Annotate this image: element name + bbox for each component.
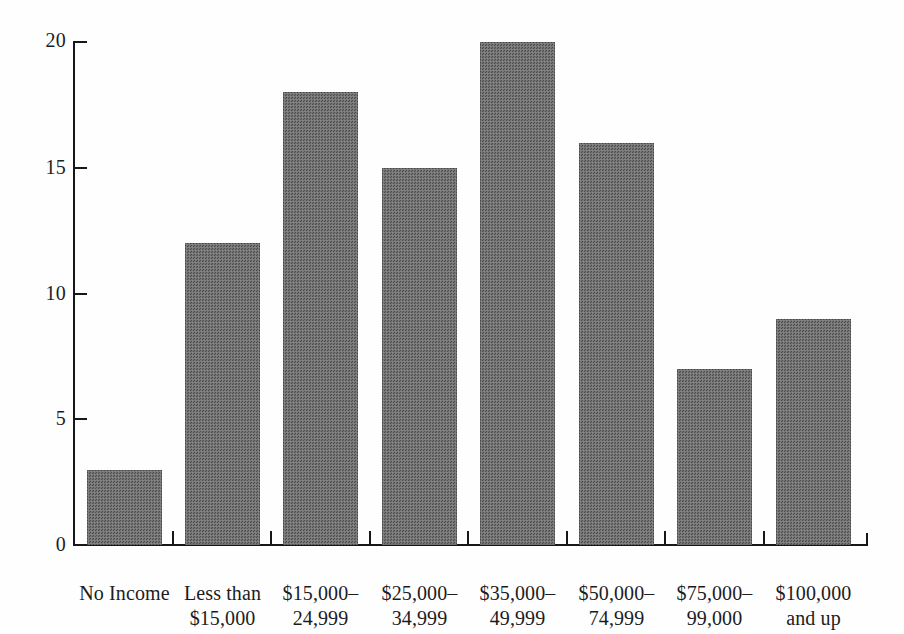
x-label-line1: $100,000 — [776, 582, 852, 604]
x-tick-6 — [664, 531, 666, 545]
bar-75k-99000 — [677, 369, 752, 545]
x-label-line2: and up — [751, 606, 876, 631]
bar-no-income — [87, 470, 162, 545]
y-tick-label-15: 15 — [12, 157, 66, 177]
x-label-line1: $50,000– — [579, 582, 655, 604]
x-label-line1: $15,000– — [283, 582, 359, 604]
x-tick-2 — [270, 531, 272, 545]
x-tick-5 — [566, 531, 568, 545]
x-label-line1: $25,000– — [382, 582, 458, 604]
bar-35k-49999 — [480, 42, 555, 545]
x-axis-end-cap — [866, 533, 868, 545]
y-tick-5 — [75, 418, 87, 420]
x-tick-1 — [172, 531, 174, 545]
bar-50k-74999 — [579, 143, 654, 545]
x-label-line1: $75,000– — [677, 582, 753, 604]
y-tick-20 — [75, 41, 87, 43]
bar-less-than-15k — [185, 243, 260, 545]
y-tick-label-5: 5 — [12, 408, 66, 428]
y-tick-label-20: 20 — [12, 30, 66, 50]
bar-15k-24999 — [283, 92, 358, 545]
x-label-line1: $35,000– — [480, 582, 556, 604]
y-tick-15 — [75, 167, 87, 169]
bar-25k-34999 — [382, 168, 457, 545]
y-tick-label-0: 0 — [12, 534, 66, 554]
x-tick-7 — [763, 531, 765, 545]
y-tick-label-10: 10 — [12, 283, 66, 303]
x-tick-3 — [369, 531, 371, 545]
x-label-line1: Less than — [184, 582, 261, 604]
y-tick-10 — [75, 293, 87, 295]
x-label-100k-and-up: $100,000 and up — [751, 556, 876, 634]
x-label-line1: No Income — [79, 582, 169, 604]
bar-100k-and-up — [776, 319, 851, 545]
x-tick-4 — [467, 531, 469, 545]
